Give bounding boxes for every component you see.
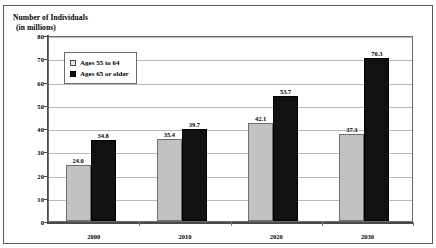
y-axis-tick-label: 20 xyxy=(37,172,44,179)
legend-label: Ages 55 to 64 xyxy=(80,59,119,67)
bar-group: 35.439.7 xyxy=(140,37,231,221)
bar xyxy=(66,165,91,221)
y-axis-title: Number of Individuals (in millions) xyxy=(13,13,88,32)
bar-value-label: 34.8 xyxy=(83,132,123,139)
y-axis-tick-label: 70 xyxy=(37,56,44,63)
y-axis-tick-label: 0 xyxy=(41,219,44,226)
y-axis-tick-label: 40 xyxy=(37,126,44,133)
y-axis-title-line1: Number of Individuals xyxy=(13,13,88,23)
bar xyxy=(339,134,364,221)
legend-item: Ages 55 to 64 xyxy=(70,57,129,68)
legend-item: Ages 65 or older xyxy=(70,68,129,79)
x-axis-tick-label: 2020 xyxy=(246,233,306,240)
bar xyxy=(182,129,207,221)
y-axis-tick-label: 30 xyxy=(37,149,44,156)
bar xyxy=(273,96,298,221)
x-axis-tick xyxy=(413,222,414,226)
y-axis-tick-label: 10 xyxy=(37,195,44,202)
x-axis-tick-label: 2030 xyxy=(337,233,397,240)
bar-value-label: 53.7 xyxy=(266,88,306,95)
legend-swatch-ages-55-to-64-icon xyxy=(70,60,76,66)
chart-figure: Number of Individuals (in millions) 0102… xyxy=(0,0,436,248)
y-axis-title-line2: (in millions) xyxy=(13,23,88,33)
cutoff-title-remnant xyxy=(0,0,436,4)
bar xyxy=(248,123,273,221)
chart-legend: Ages 55 to 64 Ages 65 or older xyxy=(64,52,137,84)
bar-value-label: 70.3 xyxy=(357,50,397,57)
y-axis-labels: 01020304050607080 xyxy=(30,30,48,228)
legend-swatch-ages-65-or-older-icon xyxy=(70,71,76,77)
bar xyxy=(91,140,116,221)
x-axis-tick-label: 2000 xyxy=(64,233,124,240)
bar xyxy=(157,139,182,221)
x-axis-tick-label: 2010 xyxy=(155,233,215,240)
bar xyxy=(364,58,389,221)
y-axis-tick-label: 60 xyxy=(37,79,44,86)
x-axis-labels: 2000201020202030 xyxy=(48,224,413,244)
bar-group: 42.153.7 xyxy=(232,37,323,221)
bar-group: 37.370.3 xyxy=(323,37,414,221)
y-axis-tick-label: 80 xyxy=(37,33,44,40)
legend-label: Ages 65 or older xyxy=(80,70,129,78)
y-axis-tick-label: 50 xyxy=(37,102,44,109)
bar-value-label: 39.7 xyxy=(174,121,214,128)
